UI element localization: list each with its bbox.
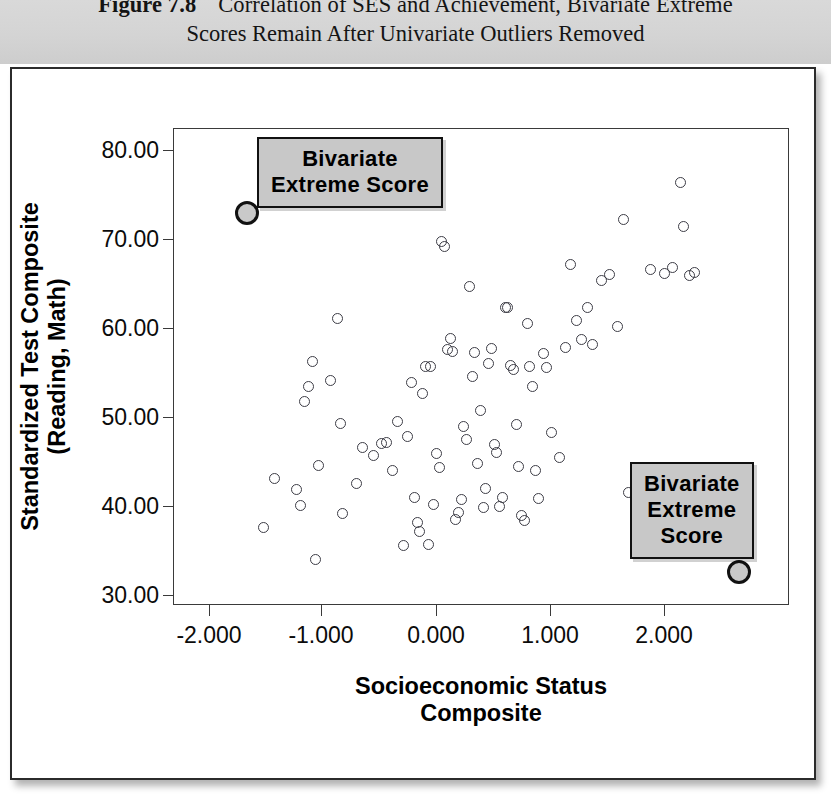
- scatter-point: [546, 427, 557, 438]
- scatter-point: [667, 262, 678, 273]
- scatter-point: [675, 177, 686, 188]
- scatter-point: [392, 416, 403, 427]
- y-tick-70: [163, 239, 174, 240]
- caption-line-2: Scores Remain After Univariate Outliers …: [0, 20, 831, 49]
- scatter-point: [414, 526, 425, 537]
- scatter-point: [560, 342, 571, 353]
- scatter-point: [428, 499, 439, 510]
- callout-br-line-2: Extreme: [644, 497, 740, 523]
- x-tick-label-neg2: -2.000: [176, 622, 241, 649]
- scatter-point: [351, 478, 362, 489]
- scatter-point: [439, 241, 450, 252]
- scatter-point: [527, 381, 538, 392]
- callout-br-line-3: Score: [644, 523, 740, 549]
- y-axis-title-line-1: Standardized Test Composite: [17, 202, 44, 531]
- x-axis-title: Socioeconomic Status Composite: [173, 673, 789, 728]
- scatter-point: [508, 364, 519, 375]
- scatter-point: [299, 396, 310, 407]
- scatter-point: [402, 431, 413, 442]
- plot-area: 80.00 70.00 60.00 50.00 40.00 30.00 -2.0…: [173, 128, 789, 605]
- callout-br-line-1: Bivariate: [644, 471, 740, 497]
- scatter-point: [645, 264, 656, 275]
- scatter-point: [478, 502, 489, 513]
- y-axis-title-line-2: (Reading, Math): [44, 202, 71, 531]
- scatter-point: [357, 442, 368, 453]
- caption-line-1: Figure 7.8Correlation of SES and Achieve…: [0, 0, 831, 20]
- scatter-point: [431, 448, 442, 459]
- scatter-point: [453, 507, 464, 518]
- scatter-point: [423, 539, 434, 550]
- y-tick-40: [163, 506, 174, 507]
- scatter-point: [325, 375, 336, 386]
- scatter-point: [291, 484, 302, 495]
- callout-tl-line-2: Extreme Score: [271, 172, 429, 198]
- figure-caption-band: Figure 7.8Correlation of SES and Achieve…: [0, 0, 831, 64]
- scatter-point: [368, 450, 379, 461]
- scatter-point: [533, 493, 544, 504]
- callout-bivariate-extreme-top-left: Bivariate Extreme Score: [257, 137, 443, 208]
- x-tick-1: [550, 604, 551, 616]
- scatter-point: [519, 515, 530, 526]
- x-tick-neg1: [321, 604, 322, 616]
- scatter-point: [576, 334, 587, 345]
- scatter-point: [571, 315, 582, 326]
- y-tick-60: [163, 328, 174, 329]
- scatter-point: [483, 358, 494, 369]
- scatter-point: [565, 259, 576, 270]
- scatter-point: [295, 500, 306, 511]
- x-tick-label-1: 1.000: [521, 622, 579, 649]
- figure-frame: Standardized Test Composite (Reading, Ma…: [10, 67, 816, 780]
- scatter-point: [494, 501, 505, 512]
- scatter-point: [434, 462, 445, 473]
- x-tick-2: [664, 604, 665, 616]
- caption-text-line-1: Correlation of SES and Achievement, Biva…: [218, 0, 733, 17]
- scatter-point: [258, 522, 269, 533]
- scatter-point: [447, 346, 458, 357]
- scatter-point: [538, 348, 549, 359]
- scatter-point: [464, 281, 475, 292]
- scatter-point: [269, 473, 280, 484]
- scatter-point: [522, 318, 533, 329]
- scatter-point: [554, 452, 565, 463]
- y-tick-30: [163, 595, 174, 596]
- scatter-point: [381, 437, 392, 448]
- scatter-point: [445, 333, 456, 344]
- scatter-point: [332, 313, 343, 324]
- callout-bivariate-extreme-bottom-right: Bivariate Extreme Score: [630, 462, 754, 559]
- scatter-point: [456, 494, 467, 505]
- y-tick-label-30: 30.00: [101, 582, 159, 609]
- scatter-point: [406, 377, 417, 388]
- scatter-point: [425, 361, 436, 372]
- scatter-point: [313, 460, 324, 471]
- x-tick-label-2: 2.000: [635, 622, 693, 649]
- scatter-point: [475, 405, 486, 416]
- callout-tl-line-1: Bivariate: [271, 146, 429, 172]
- x-axis-title-line-2: Composite: [173, 700, 789, 727]
- scatter-point: [587, 339, 598, 350]
- scatter-point: [604, 269, 615, 280]
- scatter-point: [409, 492, 420, 503]
- y-tick-80: [163, 150, 174, 151]
- scatter-point: [469, 347, 480, 358]
- scatter-point: [618, 214, 629, 225]
- y-tick-label-70: 70.00: [101, 226, 159, 253]
- scatter-point: [513, 461, 524, 472]
- scatter-point: [612, 321, 623, 332]
- scatter-point: [678, 221, 689, 232]
- figure-number: Figure 7.8: [98, 0, 196, 17]
- x-tick-0: [436, 604, 437, 616]
- x-tick-neg2: [209, 604, 210, 616]
- scatter-point: [524, 361, 535, 372]
- scatter-point: [511, 419, 522, 430]
- scatter-point: [486, 343, 497, 354]
- scatter-point: [398, 540, 409, 551]
- scatter-point: [335, 418, 346, 429]
- figure-caption: Figure 7.8Correlation of SES and Achieve…: [0, 0, 831, 49]
- y-tick-label-50: 50.00: [101, 404, 159, 431]
- scatter-point: [467, 371, 478, 382]
- y-axis-title: Standardized Test Composite (Reading, Ma…: [24, 128, 64, 605]
- scatter-point: [310, 554, 321, 565]
- bivariate-extreme-point-2: [727, 560, 751, 584]
- scatter-point: [491, 447, 502, 458]
- scatter-point: [387, 465, 398, 476]
